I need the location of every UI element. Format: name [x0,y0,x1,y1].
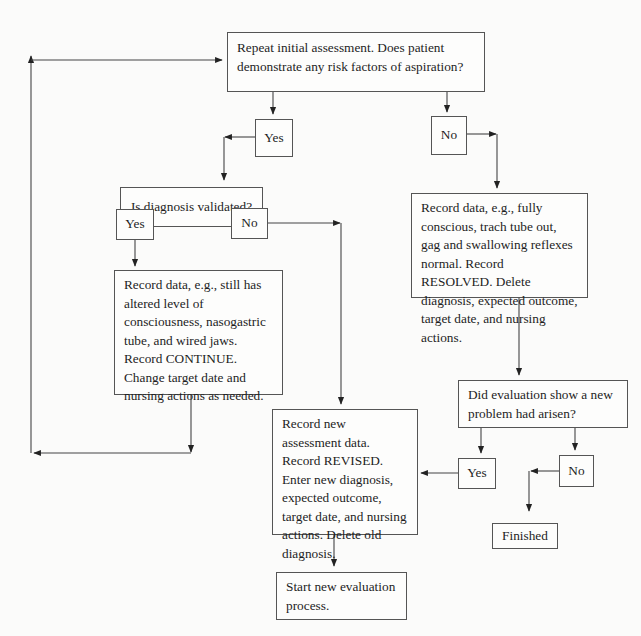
start-new-box: Start new evaluation process. [276,572,407,620]
finished-label: Finished [502,527,548,546]
yes-new-problem-label: Yes [467,464,486,483]
continue-action-box: Record data, e.g., still has altered lev… [114,270,283,395]
finished-box: Finished [492,523,558,549]
start-question-box: Repeat initial assessment. Does patient … [227,32,485,92]
no-validated-box: No [231,208,268,239]
no-new-problem-label: No [568,462,584,481]
revised-action-box: Record new assessment data. Record REVIS… [272,409,418,535]
new-problem-question-box: Did evaluation show a new problem had ar… [458,380,628,428]
yes-validated-box: Yes [116,209,154,240]
resolved-action-box: Record data, e.g., fully conscious, trac… [411,193,588,298]
yes-risk-label: Yes [264,129,283,148]
yes-risk-box: Yes [255,119,293,157]
yes-validated-label: Yes [125,215,144,234]
new-problem-question-text: Did evaluation show a new problem had ar… [468,387,613,421]
no-risk-label: No [441,126,457,145]
yes-new-problem-box: Yes [458,458,496,489]
no-new-problem-box: No [559,455,594,487]
no-risk-box: No [431,116,467,155]
start-new-text: Start new evaluation process. [286,579,395,613]
continue-action-text: Record data, e.g., still has altered lev… [124,277,266,403]
no-validated-label: No [241,214,257,233]
start-question-text: Repeat initial assessment. Does patient … [237,40,463,74]
